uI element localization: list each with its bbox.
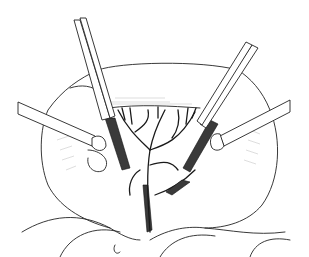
dark-vessels [105, 118, 218, 195]
right-retractor [210, 100, 290, 150]
surgical-illustration [0, 0, 309, 257]
illustration-svg [0, 0, 309, 257]
right-forceps [197, 42, 258, 128]
left-forceps [74, 18, 115, 120]
organ-outline [41, 63, 277, 228]
bowel-loops [22, 217, 290, 257]
vessel-tree [118, 107, 196, 232]
left-retractor [18, 102, 107, 172]
mesentery [108, 98, 200, 108]
